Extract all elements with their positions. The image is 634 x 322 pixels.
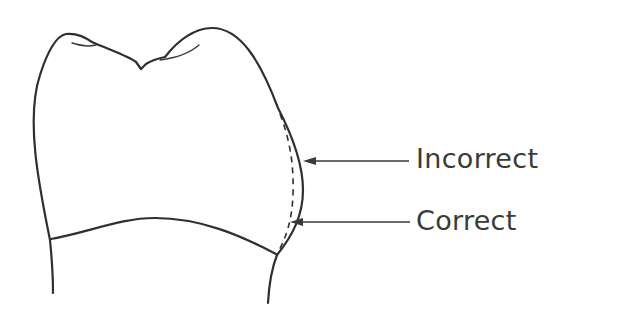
crown-outline (34, 28, 303, 255)
left-cusp-ridge (72, 43, 96, 46)
incorrect-arrowhead-icon (303, 157, 316, 165)
root-right (268, 255, 277, 303)
cej-line (51, 218, 276, 254)
right-cusp-ridge (160, 45, 199, 60)
tooth-diagram (0, 0, 634, 322)
correct-label: Correct (416, 207, 517, 234)
incorrect-label: Incorrect (416, 145, 538, 172)
root-left (50, 240, 53, 293)
